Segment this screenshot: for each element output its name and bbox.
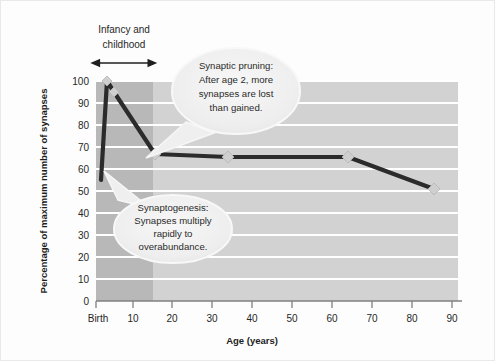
bracket-label-line1: Infancy and (98, 24, 150, 35)
chart-canvas: Infancy and childhood Synaptogenesis: Sy… (0, 0, 495, 361)
y-tick-10: 10 (78, 274, 90, 285)
y-tick-40: 40 (78, 208, 90, 219)
x-tick-70: 70 (366, 313, 378, 324)
x-tick-80: 80 (406, 313, 418, 324)
pruning-line2: After age 2, more (199, 74, 273, 85)
y-tick-30: 30 (78, 230, 90, 241)
x-axis-title: Age (years) (226, 335, 278, 346)
synaptogenesis-line1: Synaptogenesis: (138, 202, 209, 213)
synaptogenesis-line4: overabundance. (139, 241, 208, 252)
x-tick-50: 50 (286, 313, 298, 324)
x-axis-ticks: Birth 10 20 30 40 50 60 70 80 90 (88, 313, 458, 324)
y-axis-title: Percentage of maximum number of synapses (38, 89, 49, 294)
synaptogenesis-line3: rapidly to (154, 228, 193, 239)
y-tick-0: 0 (83, 296, 89, 307)
y-axis-ticks: 100 90 80 70 60 50 40 30 20 10 0 (72, 76, 89, 307)
x-tick-40: 40 (246, 313, 258, 324)
y-tick-90: 90 (78, 98, 90, 109)
x-tick-10: 10 (127, 313, 139, 324)
y-tick-60: 60 (78, 164, 90, 175)
y-tick-70: 70 (78, 142, 90, 153)
bracket-label-line2: childhood (103, 39, 146, 50)
pruning-line1: Synaptic pruning: (199, 60, 273, 71)
synaptogenesis-line2: Synapses multiply (134, 215, 212, 226)
x-tick-60: 60 (326, 313, 338, 324)
x-tick-30: 30 (206, 313, 218, 324)
infancy-childhood-bracket: Infancy and childhood (98, 24, 150, 63)
x-tick-birth: Birth (88, 313, 109, 324)
synapse-density-figure: Infancy and childhood Synaptogenesis: Sy… (0, 0, 495, 361)
y-tick-50: 50 (78, 186, 90, 197)
pruning-line4: than gained. (210, 102, 263, 113)
pruning-line3: synapses are lost (199, 88, 274, 99)
x-tick-90: 90 (446, 313, 458, 324)
x-tick-20: 20 (166, 313, 178, 324)
x-axis-tickmarks (96, 301, 452, 308)
y-tick-100: 100 (72, 76, 89, 87)
y-tick-20: 20 (78, 252, 90, 263)
y-tick-80: 80 (78, 120, 90, 131)
